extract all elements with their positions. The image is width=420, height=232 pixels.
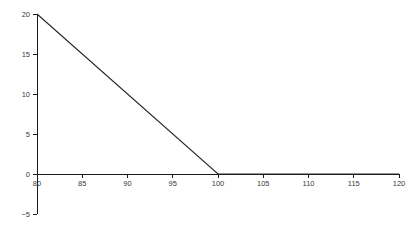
x-tick-label: 115 <box>348 179 360 188</box>
data-series-line <box>37 14 399 174</box>
x-tick-label: 95 <box>169 179 177 188</box>
y-tick-label: 20 <box>22 10 30 19</box>
y-tick-label: 0 <box>26 170 30 179</box>
y-tick-label: −5 <box>21 210 30 219</box>
y-tick-label: 10 <box>22 90 30 99</box>
line-chart-plot: 80859095100105110115120−505101520 <box>0 0 420 232</box>
x-tick-label: 120 <box>393 179 406 188</box>
chart-figure: 80859095100105110115120−505101520 <box>0 0 420 232</box>
x-tick-label: 80 <box>33 179 41 188</box>
y-tick-label: 5 <box>26 130 30 139</box>
x-tick-label: 100 <box>212 179 225 188</box>
x-tick-label: 110 <box>303 179 315 188</box>
x-tick-label: 105 <box>257 179 270 188</box>
x-tick-label: 90 <box>123 179 131 188</box>
y-tick-label: 15 <box>22 50 30 59</box>
x-tick-label: 85 <box>78 179 86 188</box>
